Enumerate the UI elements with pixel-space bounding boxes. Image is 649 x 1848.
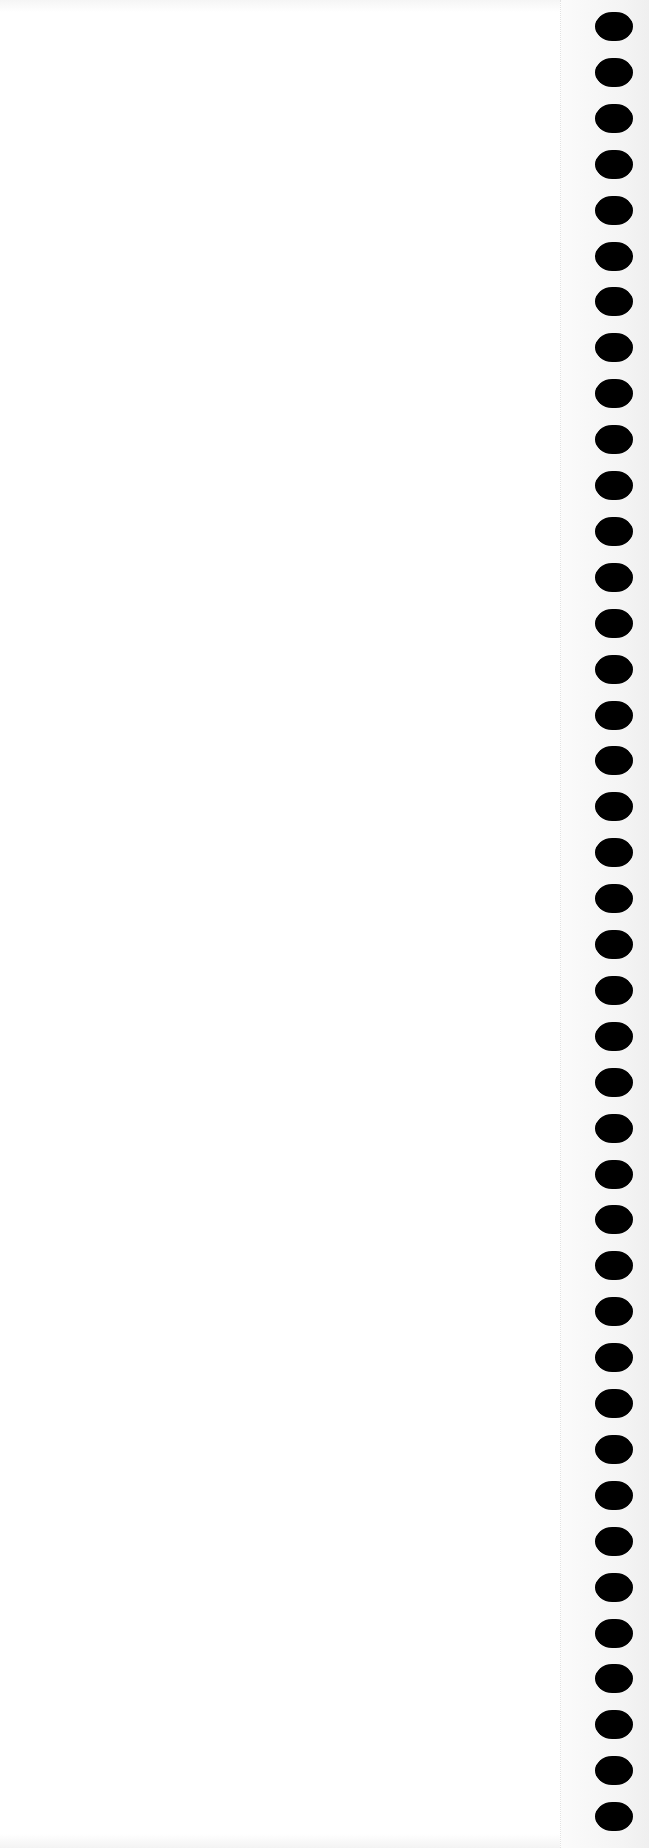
binding-hole-icon — [595, 425, 633, 454]
binding-hole-icon — [595, 1205, 633, 1234]
binding-hole-icon — [595, 517, 633, 546]
binding-hole-icon — [595, 1619, 633, 1648]
binding-hole-icon — [595, 471, 633, 500]
binding-hole-icon — [595, 379, 633, 408]
binding-hole-icon — [595, 655, 633, 684]
binding-hole-icon — [595, 58, 633, 87]
binding-hole-icon — [595, 12, 633, 41]
binding-hole-icon — [595, 976, 633, 1005]
binding-hole-icon — [595, 1022, 633, 1051]
scan-edge-top — [0, 0, 560, 12]
binding-hole-icon — [595, 242, 633, 271]
binding-hole-icon — [595, 1343, 633, 1372]
binding-hole-icon — [595, 1527, 633, 1556]
binding-hole-icon — [595, 701, 633, 730]
binding-hole-icon — [595, 884, 633, 913]
binding-hole-icon — [595, 196, 633, 225]
notebook-page — [0, 0, 649, 1848]
binding-hole-icon — [595, 1710, 633, 1739]
binding-hole-icon — [595, 1802, 633, 1831]
binding-hole-icon — [595, 1160, 633, 1189]
binding-hole-icon — [595, 609, 633, 638]
binding-hole-icon — [595, 150, 633, 179]
binding-hole-icon — [595, 1114, 633, 1143]
binding-hole-icon — [595, 930, 633, 959]
binding-hole-icon — [595, 104, 633, 133]
binding-hole-icon — [595, 1756, 633, 1785]
binding-hole-icon — [595, 1664, 633, 1693]
scan-edge-bottom — [0, 1834, 560, 1848]
binding-hole-icon — [595, 1068, 633, 1097]
binding-hole-icon — [595, 563, 633, 592]
binding-hole-icon — [595, 1435, 633, 1464]
binding-hole-icon — [595, 1389, 633, 1418]
perforation-line — [560, 0, 561, 1848]
binding-hole-icon — [595, 746, 633, 775]
binding-hole-icon — [595, 1481, 633, 1510]
binding-hole-icon — [595, 1573, 633, 1602]
binding-hole-icon — [595, 333, 633, 362]
binding-hole-icon — [595, 838, 633, 867]
binding-hole-icon — [595, 287, 633, 316]
binding-margin-strip — [561, 0, 649, 1848]
binding-hole-icon — [595, 1297, 633, 1326]
binding-hole-icon — [595, 1251, 633, 1280]
binding-hole-icon — [595, 792, 633, 821]
